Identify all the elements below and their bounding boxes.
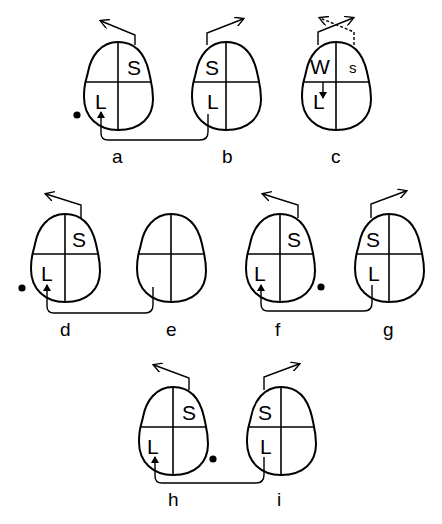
panel-label-d: d bbox=[60, 319, 71, 340]
panel-h: S L bbox=[139, 387, 208, 475]
region-label-upper-left: S bbox=[205, 56, 219, 79]
region-label-lower-left: L bbox=[207, 90, 219, 113]
output-arrow-c-dashed bbox=[320, 18, 354, 45]
region-label-lower-left: L bbox=[260, 435, 272, 458]
region-label-upper-right: S bbox=[287, 228, 301, 251]
region-label-upper-right: s bbox=[349, 59, 357, 76]
stimulus-dot-a bbox=[73, 111, 80, 118]
panel-label-b: b bbox=[222, 146, 233, 167]
panel-f: S L bbox=[246, 214, 315, 302]
region-label-lower-left: L bbox=[95, 90, 107, 113]
panel-d: S L bbox=[31, 214, 100, 302]
panel-label-a: a bbox=[112, 146, 123, 167]
region-label-lower-left: L bbox=[368, 262, 380, 285]
region-label-upper-right: S bbox=[72, 228, 86, 251]
region-label-upper-right: S bbox=[182, 401, 196, 424]
region-label-lower-left: L bbox=[147, 435, 159, 458]
region-label-upper-left: W bbox=[310, 55, 330, 78]
stimulus-dot-d bbox=[18, 284, 25, 291]
region-label-upper-right: S bbox=[127, 56, 141, 79]
stimulus-dot-f bbox=[317, 283, 324, 290]
panel-label-f: f bbox=[275, 319, 281, 340]
diagram: S L a S L b W s L c S L d bbox=[0, 0, 442, 524]
panel-i: S L bbox=[247, 387, 316, 475]
panel-label-h: h bbox=[168, 489, 179, 510]
panel-label-c: c bbox=[331, 146, 341, 167]
region-label-lower-left: L bbox=[254, 262, 266, 285]
panel-c: W s L bbox=[302, 42, 371, 130]
panel-label-g: g bbox=[383, 319, 394, 340]
region-label-lower-left: L bbox=[41, 262, 53, 285]
panel-e bbox=[137, 214, 206, 302]
region-label-upper-left: S bbox=[258, 401, 272, 424]
stimulus-dot-h bbox=[209, 455, 216, 462]
connection-b-to-a bbox=[101, 112, 208, 140]
output-arrow-c-solid bbox=[318, 18, 353, 45]
panel-label-i: i bbox=[277, 489, 281, 510]
connection-i-to-h bbox=[155, 457, 264, 483]
panel-a: S L bbox=[84, 42, 153, 130]
panel-g: S L bbox=[355, 214, 424, 302]
connection-e-to-d bbox=[47, 285, 153, 313]
panel-label-e: e bbox=[166, 319, 177, 340]
connection-g-to-f bbox=[261, 285, 372, 311]
region-label-upper-left: S bbox=[366, 228, 380, 251]
panel-b: S L bbox=[192, 42, 261, 130]
